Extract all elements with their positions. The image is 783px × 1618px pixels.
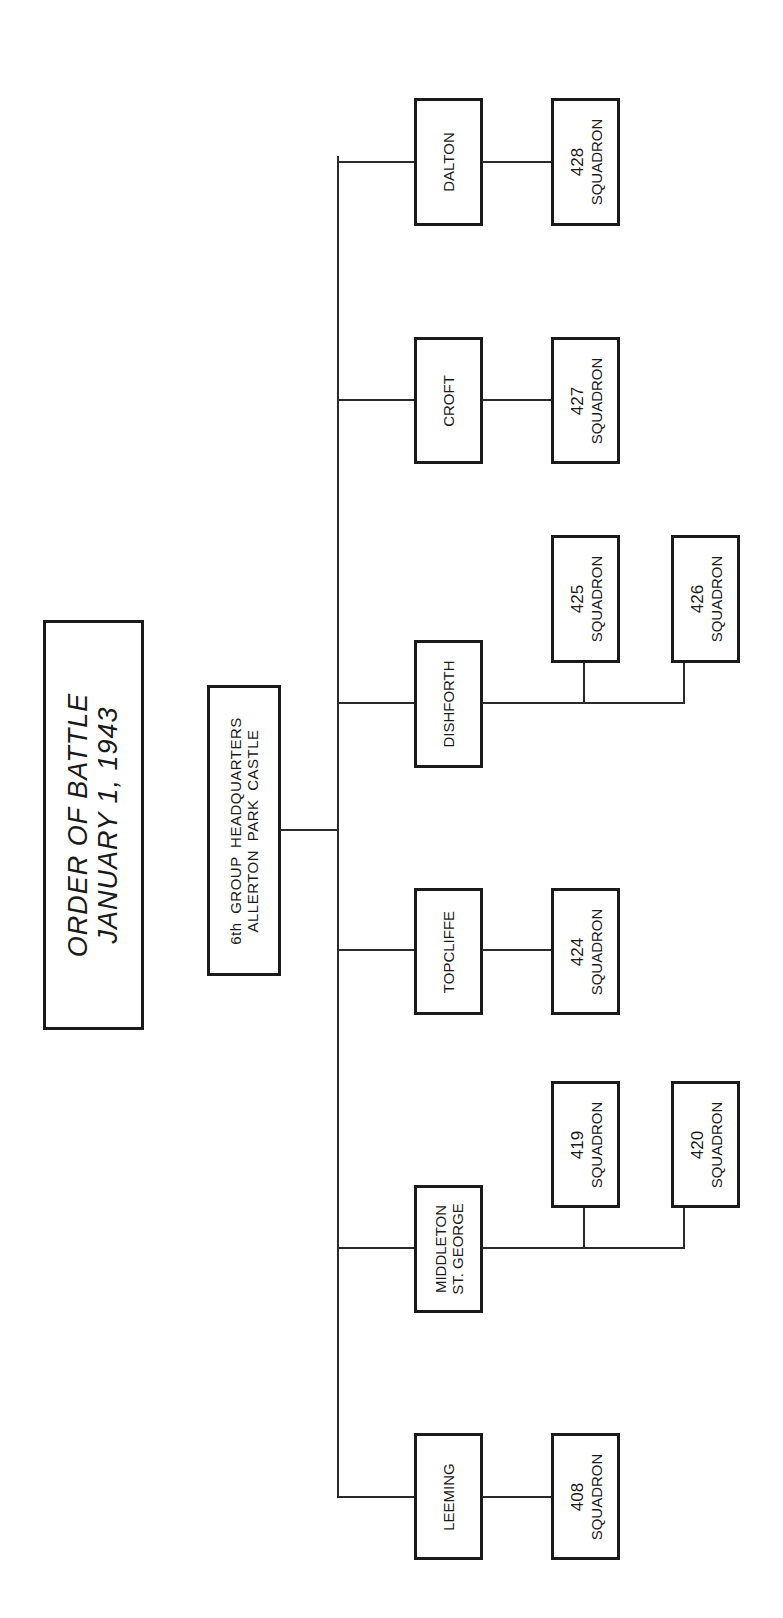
- station-box-dalton: DALTON: [414, 98, 483, 226]
- squadron-box-425: 425 SQUADRON: [551, 535, 620, 663]
- squadron-text-419: 419 SQUADRON: [567, 1101, 604, 1188]
- squadron-text-408: 408 SQUADRON: [567, 1453, 604, 1540]
- station-box-middleton-st-george: MIDDLETON ST. GEORGE: [414, 1185, 483, 1313]
- squadron-connector-408: [482, 1496, 552, 1498]
- squadron-box-420: 420 SQUADRON: [671, 1081, 740, 1208]
- squadron-box-426: 426 SQUADRON: [671, 535, 740, 663]
- squadron-connector-424: [482, 949, 552, 951]
- station-connector-dalton: [337, 161, 415, 163]
- squadron-label-425: SQUADRON: [587, 556, 604, 643]
- squadron-text-427: 427 SQUADRON: [567, 357, 604, 444]
- squadron-connector-426: [683, 662, 685, 703]
- station-connector-dishforth: [337, 702, 415, 704]
- squadron-number-428: 428: [567, 119, 587, 206]
- squadron-label-427: SQUADRON: [587, 357, 604, 444]
- squadron-text-420: 420 SQUADRON: [687, 1101, 724, 1188]
- squadron-connector-425: [583, 662, 585, 703]
- station-label-croft: CROFT: [440, 375, 457, 427]
- squadron-number-425: 425: [567, 556, 587, 643]
- squadron-number-426: 426: [687, 556, 707, 643]
- squadron-box-427: 427 SQUADRON: [551, 337, 620, 464]
- hq-connector-line: [280, 829, 338, 831]
- squadron-text-426: 426 SQUADRON: [687, 556, 724, 643]
- squadron-number-419: 419: [567, 1101, 587, 1188]
- squadron-box-428: 428 SQUADRON: [551, 98, 620, 226]
- station-label-dishforth: DISHFORTH: [440, 660, 457, 747]
- station-label-middleton-st-george: MIDDLETON ST. GEORGE: [431, 1203, 466, 1295]
- squadron-box-408: 408 SQUADRON: [551, 1433, 620, 1560]
- station-box-croft: CROFT: [414, 337, 483, 464]
- headquarters-text: 6th GROUP HEADQUARTERS ALLERTON PARK CAS…: [227, 717, 262, 945]
- squadron-text-425: 425 SQUADRON: [567, 556, 604, 643]
- title-box: ORDER OF BATTLE JANUARY 1, 1943: [43, 620, 144, 1030]
- squadron-label-424: SQUADRON: [587, 908, 604, 995]
- squadron-text-428: 428 SQUADRON: [567, 119, 604, 206]
- station-box-topcliffe: TOPCLIFFE: [414, 888, 483, 1015]
- spine-line: [337, 156, 339, 1498]
- station-label-line-1: MIDDLETON: [431, 1203, 448, 1295]
- squadron-label-420: SQUADRON: [707, 1101, 724, 1188]
- squadron-text-424: 424 SQUADRON: [567, 908, 604, 995]
- squadron-box-424: 424 SQUADRON: [551, 888, 620, 1015]
- squadron-label-408: SQUADRON: [587, 1453, 604, 1540]
- station-label-leeming: LEEMING: [440, 1463, 457, 1531]
- squadron-label-419: SQUADRON: [587, 1101, 604, 1188]
- squadron-number-427: 427: [567, 357, 587, 444]
- station-connector-leeming: [337, 1496, 415, 1498]
- title-line-2: JANUARY 1, 1943: [94, 693, 124, 958]
- squadron-label-426: SQUADRON: [707, 556, 724, 643]
- squadron-box-419: 419 SQUADRON: [551, 1081, 620, 1208]
- headquarters-box: 6th GROUP HEADQUARTERS ALLERTON PARK CAS…: [207, 685, 281, 976]
- squadron-number-408: 408: [567, 1453, 587, 1540]
- squadron-label-428: SQUADRON: [587, 119, 604, 206]
- title-line-1: ORDER OF BATTLE: [64, 693, 94, 958]
- station-label-topcliffe: TOPCLIFFE: [440, 910, 457, 992]
- squadron-number-424: 424: [567, 908, 587, 995]
- squadron-connector-420: [683, 1207, 685, 1248]
- squadron-number-420: 420: [687, 1101, 707, 1188]
- station-label-line-2: ST. GEORGE: [449, 1203, 466, 1295]
- headquarters-line-2: ALLERTON PARK CASTLE: [244, 717, 261, 945]
- squadron-connector-428: [482, 161, 552, 163]
- title-text: ORDER OF BATTLE JANUARY 1, 1943: [64, 693, 123, 958]
- station-box-dishforth: DISHFORTH: [414, 640, 483, 768]
- station-connector-croft: [337, 399, 415, 401]
- station-connector-middleton: [337, 1247, 415, 1249]
- squadron-connector-419: [583, 1207, 585, 1248]
- station-label-dalton: DALTON: [440, 132, 457, 191]
- station-connector-topcliffe: [337, 949, 415, 951]
- headquarters-line-1: 6th GROUP HEADQUARTERS: [227, 717, 244, 945]
- station-box-leeming: LEEMING: [414, 1433, 483, 1560]
- squadron-connector-427: [482, 399, 552, 401]
